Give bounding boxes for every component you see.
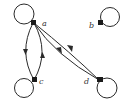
edge-a-to-c bbox=[26, 23, 34, 80]
node-d bbox=[97, 77, 103, 82]
node-c bbox=[32, 77, 37, 82]
loop-c bbox=[15, 79, 34, 98]
label-b: b bbox=[89, 21, 94, 30]
label-c: c bbox=[39, 77, 44, 86]
loop-b bbox=[101, 8, 120, 27]
label-a: a bbox=[42, 19, 47, 28]
label-d: d bbox=[84, 77, 89, 86]
node-a bbox=[31, 20, 36, 25]
arrow-a-to-d bbox=[56, 47, 62, 54]
arrow-a-to-c bbox=[23, 49, 28, 55]
directed-graph: a b c d bbox=[0, 0, 127, 104]
edge-c-to-a bbox=[34, 23, 42, 80]
node-b bbox=[98, 20, 103, 25]
edge-d-to-a bbox=[34, 23, 99, 80]
arrow-c-to-a bbox=[40, 52, 45, 58]
